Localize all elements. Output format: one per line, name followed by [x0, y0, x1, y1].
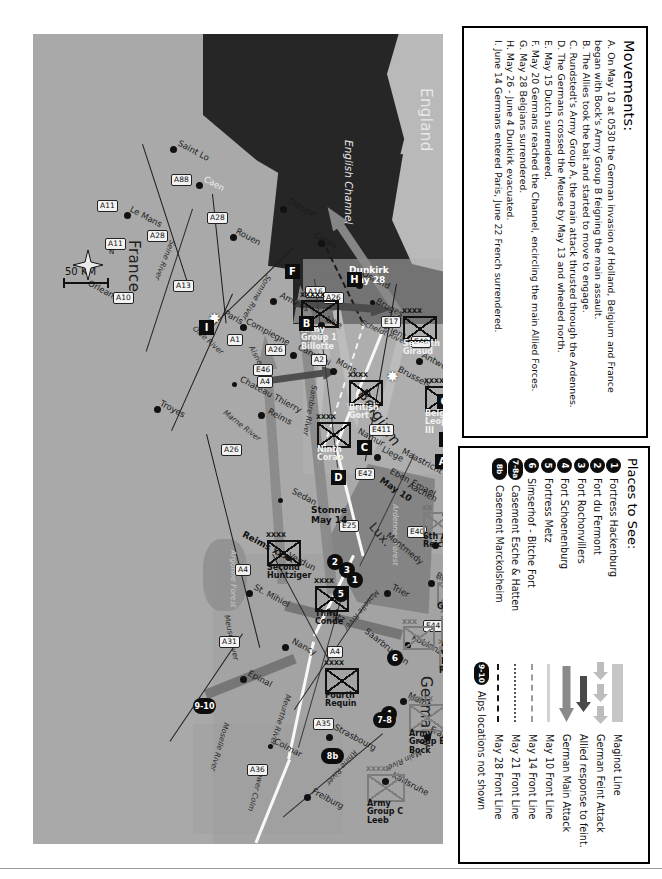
legend-panel-wrap: Places to See: 1 Fortress Hackenburg 2 F…: [458, 446, 650, 864]
key-label-maginot: Maginot Line: [612, 734, 623, 796]
movements-line-h: H. May 26 - June 4 Dunkirk evacuated.: [504, 40, 517, 424]
city-dot-mons: [330, 368, 337, 375]
unit-xxx-cologne: XXX: [403, 626, 435, 650]
movement-marker-b[interactable]: B: [299, 316, 314, 331]
river-label-marne: Marne River: [221, 408, 262, 443]
movement-marker-e[interactable]: E: [439, 432, 443, 447]
unit-size-guderian: XXX: [436, 574, 443, 582]
key-label-alps: Alps locations not shown: [476, 691, 487, 810]
water-label-english-channel: English Channel: [343, 140, 355, 204]
unit-guderian: XXX Guderian: [437, 582, 443, 605]
place-name-6: Simserhof - Bitche Fort: [526, 478, 537, 588]
key-row-may28: May 28 Front Line: [490, 662, 507, 852]
site-marker-3[interactable]: 3: [339, 562, 355, 578]
key-row-maginot: Maginot Line: [609, 662, 626, 852]
city-dot-nancy: [282, 644, 289, 651]
place-item-4[interactable]: 4 Fort Schoenenburg: [556, 458, 572, 652]
unit-size-british: XXXX: [348, 371, 368, 379]
country-label-england: England: [417, 88, 435, 152]
unit-size-army-group-b: XXXXX: [408, 695, 433, 703]
city-dot-bonn: [428, 580, 435, 587]
movements-panel: Movements: A. On May 10 at 0530 the Germ…: [462, 26, 648, 438]
legend-panel: Places to See: 1 Fortress Hackenburg 2 F…: [458, 446, 650, 864]
map-body: England France Belgium Germany Lux. Engl…: [33, 34, 443, 844]
places-to-see-title: Places to See:: [625, 458, 640, 652]
place-item-3[interactable]: 3 Fort Rochonvillers: [573, 458, 589, 652]
country-label-france: France: [125, 240, 143, 292]
site-marker-9-10[interactable]: 9-10: [193, 698, 216, 714]
place-number-4: 4: [557, 458, 572, 473]
unit-size-reinhardt: XXX: [438, 638, 443, 646]
site-marker-7-8[interactable]: 7-8: [373, 712, 396, 728]
place-number-3: 3: [574, 458, 589, 473]
place-number-2: 2: [590, 458, 605, 473]
unit-british-bef: XXXX British Gort: [349, 380, 383, 406]
unit-size-army-group-c: XXXXX: [366, 765, 391, 773]
movement-marker-i[interactable]: I: [199, 320, 214, 335]
place-item-8b[interactable]: 8b Casement Marckolsheim: [491, 458, 507, 652]
key-label-may10: May 10 Front Line: [544, 734, 555, 819]
unit-seventh-army: XXXX Seventh Giraud: [403, 316, 437, 342]
site-marker-8b[interactable]: 8b: [321, 748, 344, 764]
unit-army-group-c: XXXXX Army Group C Leeb: [367, 774, 405, 802]
key-label-may28: May 28 Front Line: [493, 734, 504, 819]
unit-6th-army: XX 6th Army Reichenau: [423, 512, 443, 535]
key-row-allied: Allied response to feint.: [575, 662, 592, 852]
place-item-5[interactable]: 5 Fortress Metz: [540, 458, 556, 652]
place-name-8b: Casement Marckolsheim: [494, 485, 505, 603]
city-dot-reims: [258, 412, 265, 419]
unit-name-reinhardt: Reinhardt: [439, 667, 443, 675]
unit-name-second: Second Huntziger: [267, 564, 311, 581]
river-label-seine: Seine River: [153, 239, 177, 282]
city-dot-strasbourg: [326, 734, 333, 741]
may21-front-line-swatch: [508, 662, 523, 726]
road-shield-e46: E46: [253, 364, 273, 376]
city-dot-cambrai: [290, 352, 297, 359]
place-number-8b: 8b: [492, 458, 507, 480]
road-shield-a88: A88: [171, 174, 192, 186]
unit-size-6th-army: XX: [422, 504, 432, 512]
unit-name-guderian: Guderian: [437, 603, 443, 611]
place-item-2[interactable]: 2 Fort du Fermont: [589, 458, 605, 652]
site-marker-5[interactable]: 5: [333, 586, 349, 602]
movement-marker-a[interactable]: A: [435, 454, 443, 469]
movement-marker-g[interactable]: G: [437, 394, 443, 409]
movements-line-c: C. Rundstedt's Army Group A, the main at…: [567, 40, 580, 424]
key-label-main: German Main Attack: [561, 734, 572, 832]
road-shield-a4b: A4: [235, 564, 251, 576]
place-name-1: Fortress Hackenburg: [608, 478, 619, 577]
place-item-1[interactable]: 1 Fortress Hackenburg: [606, 458, 622, 652]
allied-response-arrow-icon: [576, 662, 591, 726]
may10-front-line-swatch: [542, 662, 557, 726]
unit-name-army-group-b: Army Group B Bock: [409, 730, 443, 755]
movement-marker-d[interactable]: D: [331, 470, 346, 485]
road-shield-e17: E17: [381, 316, 401, 328]
movements-line-g: G. May 28 Belgians surrendered.: [516, 40, 529, 424]
unit-size-fourth: XXXX: [324, 659, 344, 667]
key-row-may21: May 21 Front Line: [507, 662, 524, 852]
places-to-see-section: Places to See: 1 Fortress Hackenburg 2 F…: [468, 458, 640, 652]
map-rotation-layer: England France Belgium Germany Lux. Engl…: [33, 34, 443, 844]
movement-marker-c[interactable]: C: [357, 440, 372, 455]
city-label-saint-lo: Saint Lo: [176, 138, 211, 163]
road-shield-a26c: A26: [221, 444, 242, 456]
road-shield-a36: A36: [247, 764, 268, 776]
place-number-1: 1: [606, 458, 621, 473]
site-marker-6[interactable]: 6: [387, 650, 403, 666]
road-shield-a35: A35: [313, 718, 334, 730]
places-list: 1 Fortress Hackenburg 2 Fort du Fermont …: [491, 458, 622, 652]
movement-marker-f[interactable]: F: [285, 264, 300, 279]
road-shield-e42: E42: [355, 468, 375, 480]
movement-marker-h[interactable]: H: [347, 272, 362, 287]
place-item-6[interactable]: 6 Simserhof - Bitche Fort: [524, 458, 540, 652]
place-name-3: Fort Rochonvillers: [576, 478, 587, 564]
scale-bar: [63, 282, 109, 284]
unit-name-ninth: Ninth Corap: [317, 446, 343, 463]
place-name-7-8a: Casement Esche & Hatten: [510, 485, 521, 611]
unit-name-army-group-c: Army Group C Leeb: [367, 800, 405, 825]
movements-line-d: D. The Germans crossed the Meuse by May …: [554, 40, 567, 424]
place-number-5: 5: [541, 458, 556, 473]
unit-size-third: XXXX: [314, 577, 334, 585]
place-item-7-8a[interactable]: 7-8a Casement Esche & Hatten: [507, 458, 523, 652]
page-bottom-rule: [0, 868, 662, 869]
